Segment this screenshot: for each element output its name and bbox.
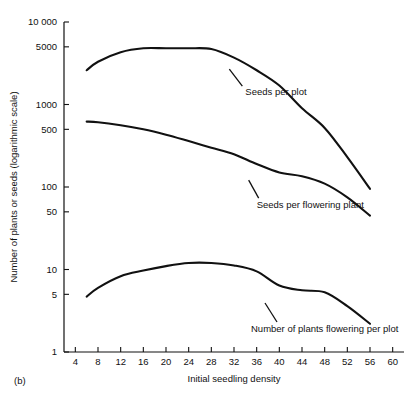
line-chart: 10 00050001000500100501051 4812162024283… <box>0 0 413 401</box>
x-tick-label: 4 <box>73 356 78 367</box>
panel-label: (b) <box>14 375 26 386</box>
series-annotation: Seeds per flowering plant <box>257 199 365 210</box>
y-tick-label: 10 <box>46 264 57 275</box>
x-axis-title: Initial seedling density <box>188 373 281 384</box>
y-tick-label: 1000 <box>36 99 57 110</box>
y-tick-label: 500 <box>41 124 57 135</box>
y-tick-label: 5 <box>52 289 57 300</box>
y-tick-label: 5000 <box>36 41 57 52</box>
x-tick-label: 56 <box>365 356 376 367</box>
x-tick-label: 28 <box>206 356 217 367</box>
x-tick-label: 8 <box>95 356 100 367</box>
series-annotation: Number of plants flowering per plot <box>251 323 399 334</box>
x-tick-label: 48 <box>319 356 330 367</box>
x-tick-label: 20 <box>161 356 172 367</box>
y-tick-label: 50 <box>46 206 57 217</box>
x-tick-label: 12 <box>115 356 126 367</box>
x-tick-label: 44 <box>297 356 308 367</box>
x-tick-label: 32 <box>229 356 240 367</box>
y-tick-label: 100 <box>41 181 57 192</box>
x-tick-label: 52 <box>342 356 353 367</box>
x-tick-label: 16 <box>138 356 149 367</box>
x-tick-label: 36 <box>251 356 262 367</box>
y-tick-label: 1 <box>52 346 57 357</box>
series-annotation: Seeds per plot <box>245 86 307 97</box>
y-tick-label: 10 000 <box>28 16 57 27</box>
x-tick-label: 40 <box>274 356 285 367</box>
figure-panel-b: 10 00050001000500100501051 4812162024283… <box>0 0 413 401</box>
x-tick-label: 60 <box>387 356 398 367</box>
x-tick-label: 24 <box>183 356 194 367</box>
x-axis-tick-labels: 4812162024283236404448525660 <box>73 356 398 367</box>
y-axis-title: Number of plants or seeds (logarithmic s… <box>8 91 19 282</box>
